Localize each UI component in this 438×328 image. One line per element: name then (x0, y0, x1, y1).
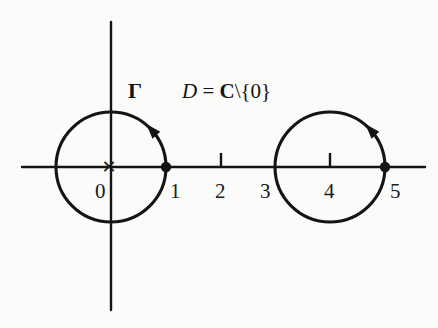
domain-label: D = C\{0} (182, 81, 271, 102)
figure-canvas (0, 0, 438, 328)
puncture-cross-icon: × (102, 154, 116, 179)
domain-remainder: \{0} (235, 79, 272, 103)
tick-label-0: 0 (95, 181, 106, 202)
domain-symbol: D (182, 79, 197, 103)
tick-label-2: 2 (215, 181, 226, 202)
complex-plane-figure: × 012345 Γ D = C\{0} (0, 0, 438, 328)
tick-label-3: 3 (260, 181, 271, 202)
base-point-5 (380, 162, 390, 172)
base-point-1 (161, 162, 171, 172)
tick-label-5: 5 (390, 181, 401, 202)
contour-label-gamma: Γ (128, 80, 142, 102)
orientation-arrowheads (146, 124, 379, 139)
domain-equals: = (197, 79, 219, 103)
domain-set-symbol: C (220, 79, 235, 103)
tick-label-1: 1 (170, 181, 181, 202)
tick-label-4: 4 (324, 181, 335, 202)
